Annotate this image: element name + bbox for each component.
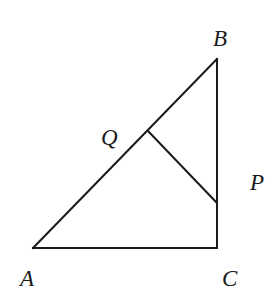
diagram-svg: B Q P A C [0,0,280,297]
label-b: B [213,26,227,51]
triangle-diagram: B Q P A C [0,0,280,297]
label-q: Q [101,125,118,150]
segment-qp [148,131,217,203]
label-a: A [18,266,35,291]
label-p: P [249,170,264,195]
label-c: C [222,266,238,291]
segment-ab [33,59,217,248]
